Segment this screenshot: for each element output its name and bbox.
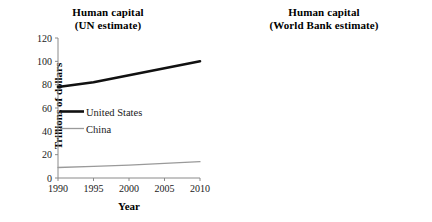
- data-line-united-states: [58, 61, 200, 87]
- data-line-china: [58, 162, 200, 168]
- chart-panel-world-bank-estimate: Human capital (World Bank estimate) Tril…: [216, 0, 432, 222]
- chart-panel-un-estimate: Human capital (UN estimate) Trillions of…: [0, 0, 216, 222]
- plot-area-un-estimate: 02040608010012019901995200020052010Unite…: [0, 0, 216, 222]
- x-axis-tick-label: 2000: [119, 183, 139, 194]
- x-axis-tick-label: 1990: [48, 183, 68, 194]
- y-axis-tick-label: 40: [42, 126, 52, 137]
- figure-two-panel-line-charts: Human capital (UN estimate) Trillions of…: [0, 0, 432, 222]
- y-axis-tick-label: 80: [42, 79, 52, 90]
- legend-label-china: China: [86, 124, 111, 135]
- x-axis-tick-label: 1995: [84, 183, 104, 194]
- y-axis-tick-label: 20: [42, 149, 52, 160]
- y-axis-tick-label: 100: [37, 56, 52, 67]
- y-axis-tick-label: 120: [37, 33, 52, 44]
- legend-label-united-states: United States: [86, 107, 142, 118]
- x-axis-tick-label: 2010: [190, 183, 210, 194]
- y-axis-tick-label: 60: [42, 103, 52, 114]
- plot-area-world-bank-estimate: 05010015020025019952000200520102014: [216, 0, 432, 222]
- x-axis-tick-label: 2005: [155, 183, 175, 194]
- y-axis-tick-label: 0: [47, 173, 52, 184]
